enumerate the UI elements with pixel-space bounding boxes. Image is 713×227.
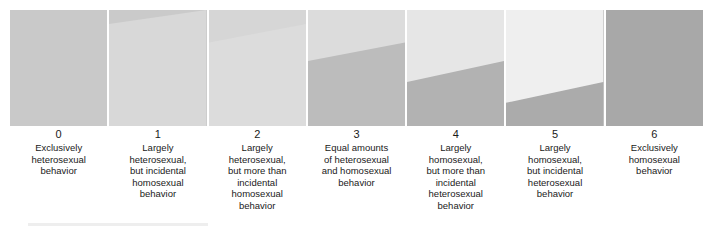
scale-panel-4 (407, 10, 504, 126)
scale-panel-row (10, 10, 703, 126)
scale-panel-5 (506, 10, 603, 126)
scan-edge-artifact (28, 223, 208, 226)
panel-shading-4 (407, 10, 504, 126)
homosexual-region-0 (10, 10, 107, 126)
caption-number-5: 5 (507, 128, 602, 141)
homosexual-region-1 (109, 10, 206, 126)
caption-text-1: Largely heterosexual, but incidental hom… (110, 142, 205, 200)
scale-caption-2: 2Largely heterosexual, but more than inc… (209, 128, 306, 212)
homosexual-region-6 (606, 10, 703, 126)
scale-caption-4: 4Largely homosexual, but more than incid… (407, 128, 504, 212)
kinsey-scale-figure: 0Exclusively heterosexual behavior1Large… (0, 0, 713, 227)
caption-text-4: Largely homosexual, but more than incide… (408, 142, 503, 212)
panel-shading-2 (209, 10, 306, 126)
caption-text-6: Exclusively homosexual behavior (607, 142, 702, 177)
scale-caption-0: 0Exclusively heterosexual behavior (10, 128, 107, 212)
scale-caption-row: 0Exclusively heterosexual behavior1Large… (10, 128, 703, 212)
caption-number-2: 2 (210, 128, 305, 141)
caption-number-0: 0 (11, 128, 106, 141)
panel-shading-1 (109, 10, 206, 126)
scale-panel-2 (209, 10, 306, 126)
panel-shading-5 (506, 10, 603, 126)
caption-text-3: Equal amounts of heterosexual and homose… (309, 142, 404, 188)
scale-panel-1 (109, 10, 206, 126)
caption-text-2: Largely heterosexual, but more than inci… (210, 142, 305, 212)
scale-panel-0 (10, 10, 107, 126)
caption-number-4: 4 (408, 128, 503, 141)
caption-text-5: Largely homosexual, but incidental heter… (507, 142, 602, 200)
panel-shading-0 (10, 10, 107, 126)
panel-shading-6 (606, 10, 703, 126)
scale-panel-6 (606, 10, 703, 126)
scale-caption-6: 6Exclusively homosexual behavior (606, 128, 703, 212)
caption-number-1: 1 (110, 128, 205, 141)
scale-panel-3 (308, 10, 405, 126)
caption-text-0: Exclusively heterosexual behavior (11, 142, 106, 177)
scale-caption-3: 3Equal amounts of heterosexual and homos… (308, 128, 405, 212)
panel-shading-3 (308, 10, 405, 126)
caption-number-3: 3 (309, 128, 404, 141)
caption-number-6: 6 (607, 128, 702, 141)
scale-caption-1: 1Largely heterosexual, but incidental ho… (109, 128, 206, 212)
scale-caption-5: 5Largely homosexual, but incidental hete… (506, 128, 603, 212)
